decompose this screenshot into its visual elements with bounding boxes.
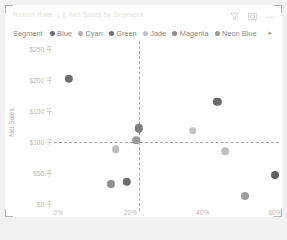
plot-clip: [5, 41, 282, 217]
scatter-point[interactable]: [65, 75, 73, 83]
scatter-point[interactable]: [134, 124, 142, 132]
scatter-point[interactable]: [189, 127, 197, 135]
legend-item-label: Jade: [150, 29, 166, 38]
visual-title: Return Rate ❘❙ Net Sales by Segment: [13, 10, 143, 19]
legend-swatch-icon: [172, 31, 177, 36]
scatter-point[interactable]: [213, 97, 221, 105]
reference-line-average-net-sales: [54, 142, 279, 143]
legend-item-blue[interactable]: Blue: [50, 29, 72, 38]
plot-region: $0 千$50 千$100 千$150 千$200 千$250 千 0%20%4…: [5, 41, 282, 217]
legend-next-arrow[interactable]: ▸: [268, 29, 272, 37]
scatter-point[interactable]: [132, 136, 140, 144]
legend-swatch-icon: [143, 31, 148, 36]
legend-swatch-icon: [215, 31, 220, 36]
scatter-chart-visual[interactable]: Return Rate ❘❙ Net Sales by Segment ⋯ Se…: [5, 5, 282, 217]
legend-item-cyan[interactable]: Cyan: [78, 29, 103, 38]
legend-swatch-icon: [78, 31, 83, 36]
filter-icon[interactable]: [229, 11, 240, 22]
legend-swatch-icon: [50, 31, 55, 36]
visual-header-icons: ⋯: [229, 11, 276, 22]
scatter-point[interactable]: [112, 146, 120, 154]
plot-area[interactable]: [58, 49, 275, 204]
scatter-point[interactable]: [123, 177, 131, 185]
legend-item-label: Magenta: [180, 29, 209, 38]
visual-corner-top-left: [5, 5, 13, 13]
legend-item-jade[interactable]: Jade: [143, 29, 167, 38]
scatter-point[interactable]: [107, 180, 115, 188]
legend-item-label: Neon Blue: [222, 29, 257, 38]
legend-title: Segment: [13, 29, 43, 38]
legend-items: BlueCyanGreenJadeMagentaNeon Blue: [50, 29, 263, 38]
legend-swatch-icon: [109, 31, 114, 36]
legend-item-label: Cyan: [85, 29, 102, 38]
canvas-background: [0, 217, 287, 240]
more-options-icon[interactable]: ⋯: [265, 11, 276, 22]
focus-mode-icon[interactable]: [247, 11, 258, 22]
legend-item-green[interactable]: Green: [109, 29, 137, 38]
legend-item-label: Blue: [57, 29, 72, 38]
legend-item-neon-blue[interactable]: Neon Blue: [215, 29, 257, 38]
legend-item-label: Green: [116, 29, 137, 38]
legend-item-magenta[interactable]: Magenta: [172, 29, 208, 38]
scatter-point[interactable]: [221, 148, 229, 156]
scatter-point[interactable]: [271, 171, 279, 179]
scatter-point[interactable]: [241, 192, 249, 200]
legend: Segment BlueCyanGreenJadeMagentaNeon Blu…: [13, 27, 274, 39]
